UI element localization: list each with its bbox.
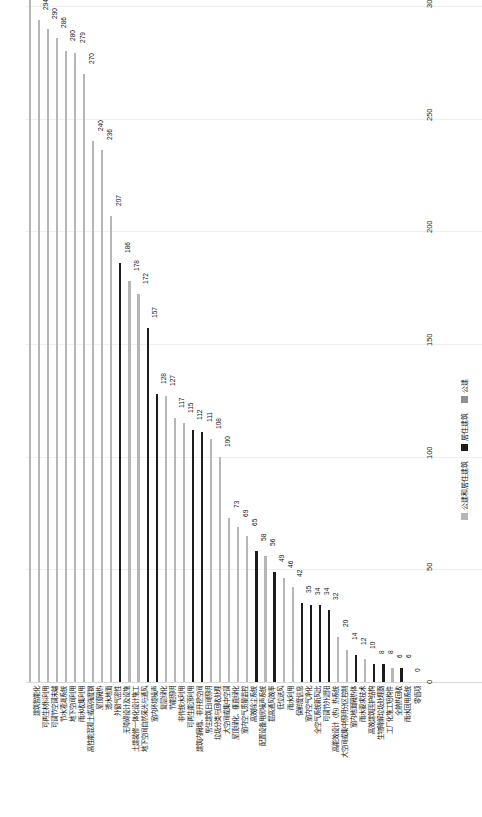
bar-slot: 178	[126, 6, 134, 682]
bar-slot: 69	[235, 6, 243, 682]
category-label: 复层绿化	[160, 686, 167, 710]
bar[interactable]	[301, 603, 303, 682]
legend-item[interactable]: 公建	[459, 379, 469, 403]
legend-swatch-icon	[461, 513, 468, 520]
bar[interactable]	[74, 53, 76, 682]
bar-slot: 294	[35, 6, 43, 682]
bar-slot: 34	[316, 6, 324, 682]
bar[interactable]	[183, 423, 185, 682]
category-label: 高效除尘系统	[250, 686, 257, 722]
bar[interactable]	[29, 0, 31, 682]
bar[interactable]	[255, 551, 257, 682]
bar-slot: 270	[80, 6, 88, 682]
gridline-0	[26, 682, 482, 683]
bar-slot: 32	[325, 6, 333, 682]
bar-slot: 34	[307, 6, 315, 682]
category-label: 可再生能源利用	[187, 686, 194, 728]
bar[interactable]	[337, 637, 339, 682]
legend-label: 公建和居住建筑	[459, 461, 469, 510]
bar[interactable]	[364, 659, 366, 682]
bar-value-label: 0	[414, 668, 421, 672]
bar-slot: 279	[71, 6, 79, 682]
bar-slot: 115	[180, 6, 188, 682]
category-label: 建筑内隔墙、非开挖空间	[196, 686, 203, 752]
chart-legend: 公建和居住建筑居住建筑公建	[452, 320, 476, 520]
category-label: 雨水回用系统	[404, 686, 411, 722]
bar-slot: 42	[289, 6, 297, 682]
bar[interactable]	[119, 263, 121, 682]
bar[interactable]	[310, 605, 312, 682]
category-label: 保鲜度信息	[296, 686, 303, 716]
bar[interactable]	[110, 216, 112, 682]
category-label: 零值项	[414, 686, 421, 704]
category-label: 高效建筑围护结构	[368, 686, 375, 734]
bar[interactable]	[174, 418, 176, 682]
bar-slot: 20	[334, 6, 342, 682]
axis-tick-300: 300	[424, 0, 436, 8]
bar[interactable]	[373, 664, 375, 682]
category-label: 垃圾分类与回收处理	[214, 686, 221, 740]
bar[interactable]	[273, 572, 275, 682]
bar[interactable]	[38, 20, 40, 682]
bar-slot: 35	[298, 6, 306, 682]
bar[interactable]	[147, 328, 149, 682]
bar[interactable]	[165, 396, 167, 682]
bar[interactable]	[319, 605, 321, 682]
bar[interactable]	[101, 150, 103, 682]
bar[interactable]	[246, 536, 248, 682]
bar-slot: 100	[216, 6, 224, 682]
category-label: 外窗气密性	[114, 686, 121, 716]
category-axis: 建筑智能化可再生材料利用可调节空调末端节水灌溉系统地下空间利用雨水收集利用高性能…	[26, 686, 416, 812]
category-label: 地下空间自然采光与通风	[141, 686, 148, 752]
bar-slot: 6	[389, 6, 397, 682]
bar-slot: 8	[380, 6, 388, 682]
bar[interactable]	[328, 610, 330, 682]
bar[interactable]	[237, 527, 239, 682]
bar[interactable]	[264, 556, 266, 682]
bar[interactable]	[400, 668, 402, 682]
category-label: 屋顶隔热	[96, 686, 103, 710]
bar-slot: 10	[362, 6, 370, 682]
category-label: 节能照明	[169, 686, 176, 710]
bar[interactable]	[346, 650, 348, 682]
bar[interactable]	[137, 294, 139, 682]
bar[interactable]	[201, 432, 203, 682]
bar-slot: 46	[280, 6, 288, 682]
category-label: 可再生材料利用	[42, 686, 49, 728]
bar-slot: 8	[371, 6, 379, 682]
bar-slot: 108	[207, 6, 215, 682]
bar[interactable]	[92, 141, 94, 682]
category-label: 可调节外遮阳	[323, 686, 330, 722]
bar-slot: 172	[135, 6, 143, 682]
legend-item[interactable]: 公建和居住建筑	[459, 461, 469, 520]
bar[interactable]	[83, 74, 85, 682]
bar[interactable]	[228, 518, 230, 682]
bar[interactable]	[156, 394, 158, 682]
bar[interactable]	[56, 38, 58, 682]
category-label: 土建装修一体化设计施工	[132, 686, 139, 752]
bar[interactable]	[128, 281, 130, 682]
bar-slot: 312	[26, 6, 34, 682]
axis-tick-0: 0	[424, 644, 436, 684]
bar[interactable]	[210, 439, 212, 682]
bar[interactable]	[355, 655, 357, 682]
category-label: 雨水利用	[287, 686, 294, 710]
axis-tick-200: 200	[424, 193, 436, 233]
bar[interactable]	[65, 51, 67, 682]
bar[interactable]	[192, 430, 194, 682]
bar[interactable]	[219, 457, 221, 682]
bar[interactable]	[283, 578, 285, 682]
bar-slot: 207	[108, 6, 116, 682]
category-label: 生物降解垃圾处理器	[377, 686, 384, 740]
legend-swatch-icon	[461, 396, 468, 403]
category-label: 室内环境噪声	[151, 686, 158, 722]
plot-area: 3122942902862802792702402362071861781721…	[26, 6, 416, 682]
bar-chart: 3122942902862802792702402362071861781721…	[0, 0, 482, 817]
bar[interactable]	[382, 664, 384, 682]
legend-label: 公建	[459, 379, 469, 393]
bar[interactable]	[391, 668, 393, 682]
bar[interactable]	[292, 587, 294, 682]
bar-slot: 240	[89, 6, 97, 682]
legend-item[interactable]: 居住建筑	[459, 413, 469, 451]
bar[interactable]	[47, 29, 49, 682]
